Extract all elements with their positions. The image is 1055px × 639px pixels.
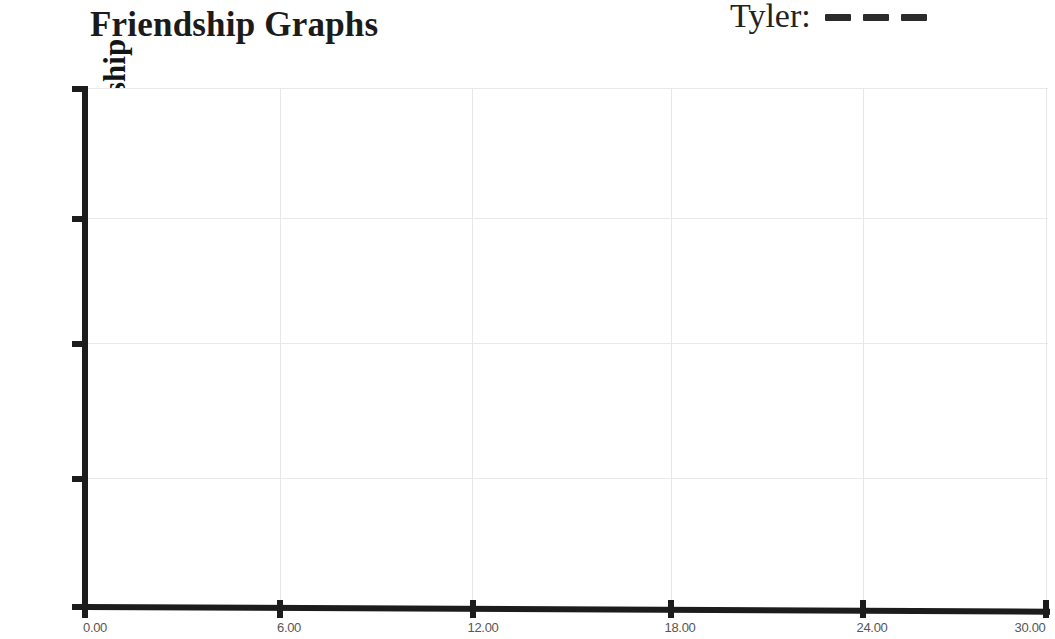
vertical-gridline xyxy=(671,88,672,608)
plot-area xyxy=(86,88,1048,608)
x-axis-tick xyxy=(82,600,88,618)
y-axis-tick xyxy=(72,476,88,482)
page-title: Friendship Graphs xyxy=(90,2,378,48)
horizontal-gridline xyxy=(86,343,1048,344)
x-axis-tick-label: 24.00 xyxy=(856,620,887,635)
x-axis-tick xyxy=(860,600,866,618)
vertical-gridline xyxy=(472,88,473,608)
legend-dash-segment xyxy=(901,14,927,21)
x-axis-tick xyxy=(470,600,476,618)
x-axis-tick-label: 18.00 xyxy=(664,620,695,635)
horizontal-gridline xyxy=(86,88,1048,89)
chart-page: Friendship Graphs Tyler: Level of Friend… xyxy=(0,0,1055,639)
legend: Tyler: xyxy=(730,0,927,38)
y-axis-tick xyxy=(72,216,88,222)
vertical-gridline xyxy=(863,88,864,608)
legend-dash-segment xyxy=(863,14,889,21)
x-axis-tick-label: 6.00 xyxy=(277,620,301,635)
vertical-gridline xyxy=(1046,88,1047,608)
horizontal-gridline xyxy=(86,218,1048,219)
x-axis-tick xyxy=(277,600,283,618)
horizontal-gridline xyxy=(86,478,1048,479)
legend-label-tyler: Tyler: xyxy=(730,0,811,38)
x-axis-tick-label: 0.00 xyxy=(83,620,107,635)
legend-dash-segment xyxy=(825,14,851,21)
x-axis-tick xyxy=(668,600,674,618)
y-axis-line xyxy=(82,86,88,610)
x-axis-tick-label: 30.00 xyxy=(1014,620,1045,635)
x-axis-tick-label: 12.00 xyxy=(467,620,498,635)
vertical-gridline xyxy=(280,88,281,608)
x-axis-tick xyxy=(1043,600,1049,618)
legend-dashed-line-swatch xyxy=(825,14,927,21)
y-axis-tick xyxy=(72,341,88,347)
y-axis-tick xyxy=(72,86,88,92)
